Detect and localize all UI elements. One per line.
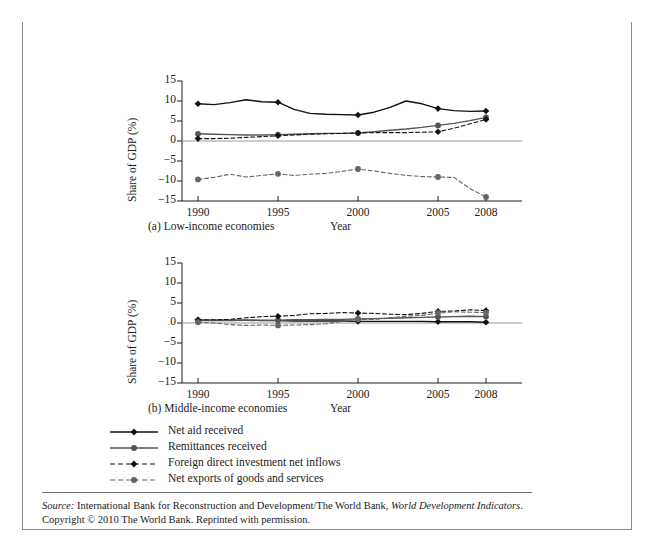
data-point-marker [195,101,202,108]
panel-a-caption: (a) Low-income economies [148,220,274,232]
legend-label: Foreign direct investment net inflows [168,456,340,468]
data-point-marker [275,171,281,177]
legend-key-circle-icon [108,472,160,487]
data-point-marker [355,166,361,172]
y-tick-label: −15 [148,193,176,205]
y-tick-label: −10 [148,173,176,185]
source-label: Source: [42,500,74,511]
legend-label: Net exports of goods and services [168,472,324,484]
x-tick-label: 2008 [462,388,510,400]
source-copyright: Copyright © 2010 The World Bank. Reprint… [42,514,310,525]
data-point-marker [195,177,201,183]
y-tick-label: −5 [148,153,176,165]
x-tick-label: 2005 [414,388,462,400]
series-line [198,119,486,138]
x-tick-label: 1990 [174,388,222,400]
x-tick-label: 2000 [334,206,382,218]
y-tick-label: 15 [148,255,176,267]
series-line [198,117,486,135]
data-point-marker [483,310,489,316]
data-point-marker [435,310,441,316]
source-line1-end: . [520,500,523,511]
x-axis-label-b: Year [330,402,351,414]
panel-b-caption: (b) Middle-income economies [148,402,287,414]
series-line [198,169,486,197]
y-tick-label: 10 [148,275,176,287]
y-tick-label: 0 [148,315,176,327]
y-tick-label: 5 [148,295,176,307]
source-line1: International Bank for Reconstruction an… [74,500,391,511]
legend-key-diamond-icon [108,424,160,439]
y-tick-label: 5 [148,113,176,125]
y-tick-label: 15 [148,73,176,85]
x-tick-label: 2005 [414,206,462,218]
legend-label: Net aid received [168,424,243,436]
x-tick-label: 2008 [462,206,510,218]
x-tick-label: 2000 [334,388,382,400]
x-tick-label: 1995 [254,206,302,218]
y-tick-label: −15 [148,375,176,387]
y-axis-label-a: Share of GDP (%) [126,118,138,202]
source-work-title: World Development Indicators [391,500,520,511]
y-axis-label-b: Share of GDP (%) [126,300,138,384]
data-point-marker [435,105,442,112]
data-point-marker [435,123,441,129]
figure-page: FIGURE 14.3 Sources of External Financin… [0,0,654,557]
data-point-marker [355,130,362,137]
x-tick-label: 1995 [254,388,302,400]
y-tick-label: 10 [148,93,176,105]
data-point-marker [275,99,282,106]
data-point-marker [435,174,441,180]
y-tick-label: 0 [148,133,176,145]
data-point-marker [483,108,490,115]
data-point-marker [355,317,361,323]
x-axis-label-a: Year [330,220,351,232]
source-note: Source: International Bank for Reconstru… [42,499,602,527]
data-point-marker [195,319,201,325]
source-divider [42,492,532,493]
data-point-marker [275,323,281,329]
y-tick-label: −10 [148,355,176,367]
series-line [198,310,486,320]
series-line [198,100,486,115]
x-tick-label: 1990 [174,206,222,218]
data-point-marker [483,319,490,326]
data-point-marker [355,310,362,317]
legend-key-circle-icon [108,440,160,455]
legend-key-diamond-icon [108,456,160,471]
legend-label: Remittances received [168,440,267,452]
data-point-marker [483,194,489,200]
y-tick-label: −5 [148,335,176,347]
data-point-marker [355,112,362,119]
data-point-marker [435,129,442,136]
